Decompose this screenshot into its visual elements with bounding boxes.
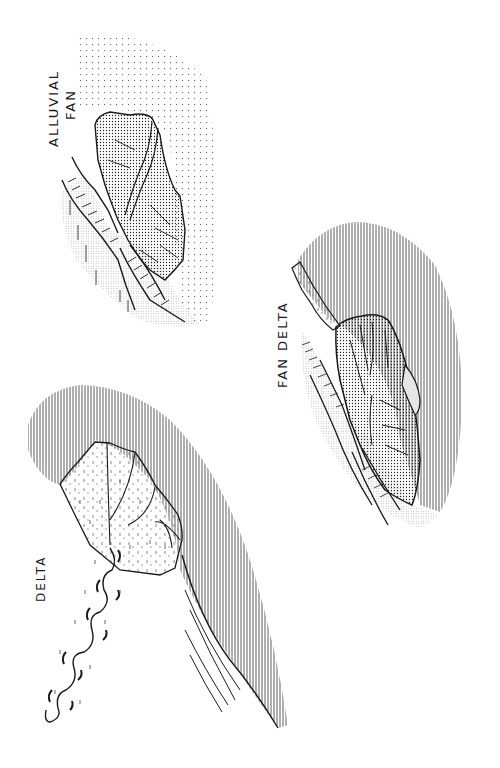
alluvial-fan-panel — [61, 35, 214, 327]
delta-meandering-river — [46, 548, 115, 722]
fan-delta-label: FAN DELTA — [276, 301, 289, 388]
delta-meander-scars — [49, 550, 120, 710]
delta-panel — [28, 385, 288, 728]
alluvial-fan-label-line2: FAN — [64, 89, 77, 120]
fan-delta-panel — [292, 222, 462, 528]
delta-label: DELTA — [35, 556, 47, 602]
figure-canvas: ALLUVIAL FAN FAN DELTA DELTA — [0, 0, 500, 768]
alluvial-fan-label-line1: ALLUVIAL — [47, 70, 60, 147]
